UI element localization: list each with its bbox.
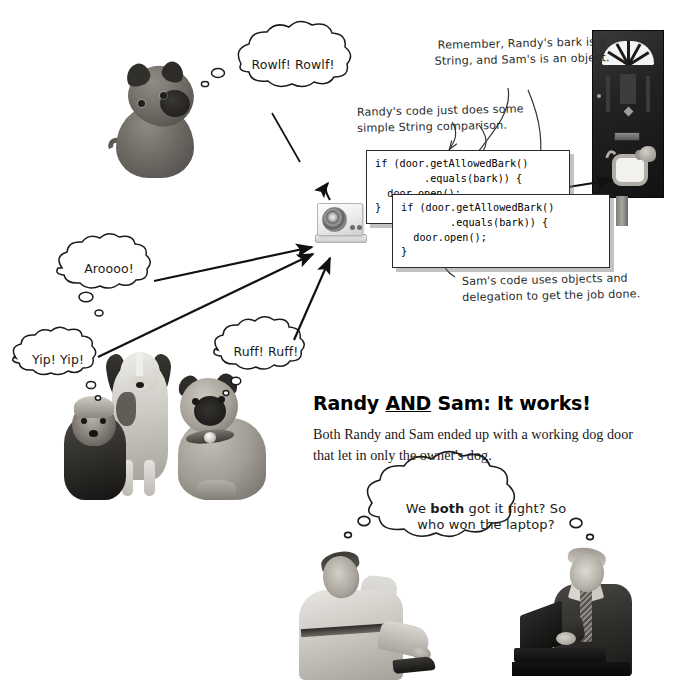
yorkie-topknot <box>74 396 114 418</box>
bubble-rowlf <box>201 21 350 86</box>
randy-shoe <box>392 656 435 674</box>
book-page: Rowlf! Rowlf! Aroooo! Yip! Yip! Ruff! Ru… <box>0 0 687 691</box>
annotation-randy-line2: simple String comparison. <box>357 117 537 137</box>
annotation-sam-line2: delegation to get the job done. <box>462 286 662 306</box>
arrow-rowlf-to-speaker <box>326 183 330 200</box>
door-hinge-dot <box>597 94 601 98</box>
bubble-rowlf-tail <box>272 113 300 162</box>
arrow-ruff-to-speaker <box>294 258 330 340</box>
door-mail-slot <box>614 132 640 141</box>
pug-dog-photo <box>108 60 204 176</box>
yorkie-right-eye <box>100 418 106 424</box>
bubble-text-aroooo: Aroooo! <box>60 261 158 277</box>
desk-surface <box>512 662 630 676</box>
bubble-text-yip: Yip! Yip! <box>14 352 102 368</box>
yorkie-left-eye <box>81 418 87 424</box>
yorkie-nose <box>89 430 98 437</box>
pug-front-right-eye <box>218 396 225 403</box>
sam-hand <box>556 632 576 645</box>
laptop-line1-after: got it right? So <box>464 501 566 516</box>
bubble-text-laptop: We both got it right? So who won the lap… <box>396 501 576 534</box>
laptop-line1-before: We <box>406 501 431 516</box>
pug-right-eye <box>160 92 167 99</box>
laptop-line1-bold: both <box>430 501 464 516</box>
door-rail-left <box>606 76 610 112</box>
bubble-text-ruff: Ruff! Ruff! <box>216 344 316 360</box>
door-center-panel <box>620 74 636 104</box>
bark-recognizer-speaker-photo <box>317 203 369 247</box>
pug-front-left-eye <box>192 398 199 405</box>
code-box-sam-text: if (door.getAllowedBark() .equals(bark))… <box>401 202 554 257</box>
three-dogs-photo <box>50 352 285 500</box>
page-title-underlined: AND <box>385 392 431 414</box>
spaniel-right-leg <box>144 460 155 496</box>
randy-in-chair-photo <box>293 554 433 691</box>
annotation-randy-code: Randy's code just does some simple Strin… <box>357 101 538 137</box>
page-title: Randy AND Sam: It works! <box>313 392 643 414</box>
pug-left-eye <box>138 100 145 107</box>
speaker-grille-icon <box>322 207 347 232</box>
annotation-sam-code: Sam's code uses objects and delegation t… <box>462 270 663 307</box>
dog-door-head-decor <box>639 146 656 162</box>
annotation-remember: Remember, Randy's bark is a String, and … <box>427 34 618 70</box>
code-box-sam: if (door.getAllowedBark() .equals(bark))… <box>392 194 610 268</box>
door-rail-right <box>646 76 650 112</box>
arrow-aroooo-to-speaker <box>154 247 312 281</box>
spaniel-nose <box>136 382 144 388</box>
door-post <box>616 196 628 226</box>
body-paragraph: Both Randy and Sam ended up with a worki… <box>313 424 643 465</box>
page-title-before: Randy <box>313 392 385 414</box>
bubble-text-rowlf: Rowlf! Rowlf! <box>238 57 348 73</box>
sam-at-laptop-photo <box>528 548 648 691</box>
laptop-keyboard-base <box>514 648 606 662</box>
page-title-after: Sam: It works! <box>431 392 590 414</box>
speaker-knob-right <box>357 225 362 230</box>
pug-front-leg <box>196 480 236 500</box>
laptop-line2: who won the laptop? <box>417 517 554 532</box>
pug-collar-tag <box>204 432 216 443</box>
section-heading-block: Randy AND Sam: It works! Both Randy and … <box>313 392 643 465</box>
annotation-remember-line2: String, and Sam's is an object. <box>427 50 617 70</box>
speaker-knob-left <box>350 225 355 230</box>
spaniel-chest-patch <box>116 392 136 426</box>
